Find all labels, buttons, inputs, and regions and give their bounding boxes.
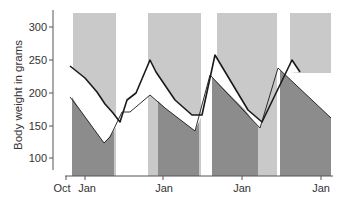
x-axis: Oct Jan Jan Jan Jan [53,176,333,194]
x-tick-jan-3: Jan [233,182,251,194]
y-axis-title: Body weight in grams [12,40,24,150]
light-band-4 [290,13,331,73]
y-tick-200: 200 [29,87,47,99]
y-tick-250: 250 [29,54,47,66]
y-tick-150: 150 [29,120,47,132]
y-tick-300: 300 [29,21,47,33]
x-tick-jan-2: Jan [155,182,173,194]
chart-canvas: 300 250 200 150 100 Body weight in grams… [0,0,349,204]
y-tick-100: 100 [29,152,47,164]
y-axis: 300 250 200 150 100 Body weight in grams [12,10,53,170]
x-tick-jan-4: Jan [312,182,330,194]
x-tick-oct: Oct [53,182,70,194]
x-tick-jan-1: Jan [78,182,96,194]
dark-area-4 [278,68,331,176]
body-weight-chart: 300 250 200 150 100 Body weight in grams… [0,0,349,204]
